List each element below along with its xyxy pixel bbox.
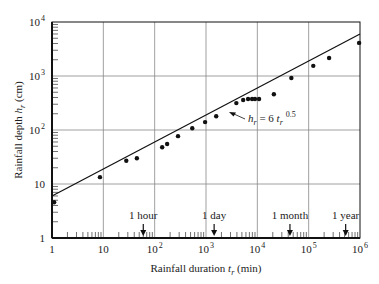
time-markers: 1 hour1 day1 month1 year [129,209,360,236]
data-point [190,126,194,130]
y-tick-label: 103 [29,68,45,82]
data-point [203,120,207,124]
rainfall-depth-duration-chart: 1 hour1 day1 month1 year 110102103104105… [0,0,379,284]
down-arrow-icon [287,230,293,236]
x-tick-label: 10 [98,243,110,255]
marker-label: 1 year [332,209,360,221]
data-point [98,175,102,179]
time-marker: 1 month [272,209,309,236]
data-point [246,97,250,101]
data-point [176,134,180,138]
data-point [160,145,164,149]
data-point [253,97,257,101]
data-point [289,76,293,80]
data-point [135,156,139,160]
equation-label: hr = 6 tr0.5 [248,110,296,127]
data-point [311,64,315,68]
marker-label: 1 hour [129,209,158,221]
time-marker: 1 hour [129,209,158,236]
down-arrow-icon [140,230,146,236]
x-tick-label: 104 [249,241,265,255]
y-tick-label: 102 [29,122,45,136]
data-point [327,56,331,60]
data-point [357,41,361,45]
equation-leader-line [234,114,245,119]
x-axis-title: Rainfall duration tr (min) [151,262,262,277]
x-tick-label: 103 [198,241,214,255]
data-point [272,92,276,96]
grid-lines [52,22,360,238]
minor-ticks [52,24,358,238]
y-tick-label: 1 [40,232,46,244]
y-axis-title: Rainfall depth hr (cm) [12,81,27,179]
data-point [165,142,169,146]
x-tick-labels: 110102103104105106 [49,241,368,255]
down-arrow-icon [343,230,349,236]
y-tick-label: 10 [34,178,46,190]
down-arrow-icon [211,230,217,236]
x-tick-label: 102 [147,241,163,255]
data-point [241,98,245,102]
marker-label: 1 month [272,209,309,221]
data-point [124,159,128,163]
equation-annotation: hr = 6 tr0.5 [229,110,296,127]
data-points [52,41,361,205]
x-tick-label: 106 [352,241,368,255]
data-point [257,97,261,101]
y-tick-label: 104 [29,14,45,28]
x-tick-label: 1 [49,243,55,255]
marker-label: 1 day [202,209,227,221]
data-point [214,114,218,118]
data-point [234,101,238,105]
data-point [52,200,56,204]
x-tick-label: 105 [301,241,317,255]
y-tick-labels: 110102103104 [29,14,46,244]
time-marker: 1 year [332,209,360,236]
